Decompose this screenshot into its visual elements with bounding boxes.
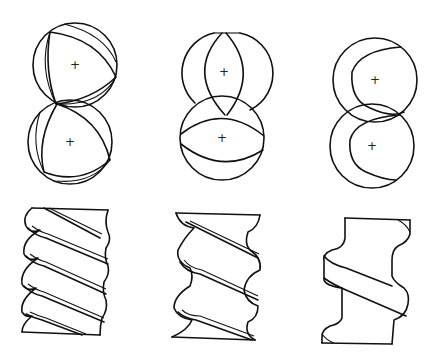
three-lobe-rotor-side-view xyxy=(22,208,110,335)
one-lobe-top-rotor: + xyxy=(333,38,417,122)
three-lobe-cross-section: + + xyxy=(28,23,117,184)
three-lobe-bottom-rotor: + xyxy=(28,100,112,184)
two-lobe-top-rotor: + xyxy=(182,33,273,115)
center-mark: + xyxy=(219,65,229,79)
two-lobe-rotor-side-view xyxy=(172,213,260,340)
one-lobe-cross-section: + + xyxy=(330,38,417,188)
one-lobe-bottom-rotor: + xyxy=(330,104,414,188)
one-lobe-rotor-side-view xyxy=(322,218,410,344)
center-mark: + xyxy=(370,73,380,87)
two-lobe-bottom-rotor: + xyxy=(180,96,264,180)
screw-rotor-diagram: Screw rotor configurations: cross-sectio… xyxy=(0,0,438,361)
center-mark: + xyxy=(65,135,75,149)
center-mark: + xyxy=(217,131,227,145)
three-lobe-top-rotor: + xyxy=(33,23,117,107)
two-lobe-cross-section: + + xyxy=(180,33,273,180)
center-mark: + xyxy=(367,139,377,153)
center-mark: + xyxy=(70,58,80,72)
